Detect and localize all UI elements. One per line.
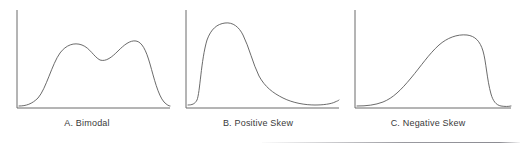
panel-caption-positive-skew: B. Positive Skew (171, 117, 345, 129)
panel-caption-negative-skew: C. Negative Skew (341, 117, 515, 129)
positive-skew-plot (171, 0, 345, 116)
bimodal-curve (19, 41, 170, 106)
axis-lines (186, 10, 339, 108)
panel-bimodal: A. Bimodal (0, 0, 174, 140)
positive-skew-curve (188, 23, 339, 105)
panel-positive-skew: B. Positive Skew (171, 0, 345, 140)
negative-skew-curve (357, 35, 511, 107)
negative-skew-plot (341, 0, 515, 116)
bottom-divider-rule (262, 142, 520, 143)
distribution-shapes-figure: A. Bimodal B. Positive Skew C. Negative … (0, 0, 522, 149)
axis-lines (17, 10, 170, 108)
panel-caption-bimodal: A. Bimodal (0, 117, 174, 129)
panel-negative-skew: C. Negative Skew (341, 0, 515, 140)
axis-lines (355, 10, 511, 108)
bimodal-plot (0, 0, 174, 116)
